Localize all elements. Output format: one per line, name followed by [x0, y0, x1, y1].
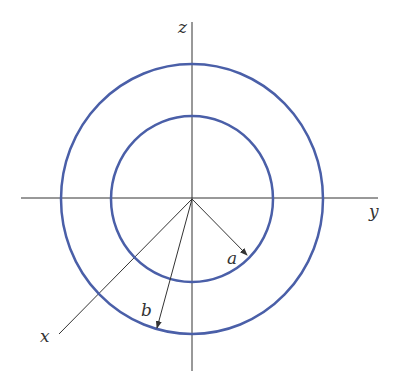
diagram-canvas: z y x a b: [0, 0, 398, 388]
concentric-circles-diagram: z y x a b: [0, 0, 398, 388]
radius-b-label: b: [141, 300, 152, 320]
x-axis-label: x: [40, 326, 50, 346]
radius-b-arrow: [157, 199, 192, 328]
radius-a-arrow: [192, 199, 247, 255]
radius-a-label: a: [227, 248, 237, 268]
z-axis-label: z: [177, 17, 188, 37]
y-axis-label: y: [368, 201, 379, 221]
